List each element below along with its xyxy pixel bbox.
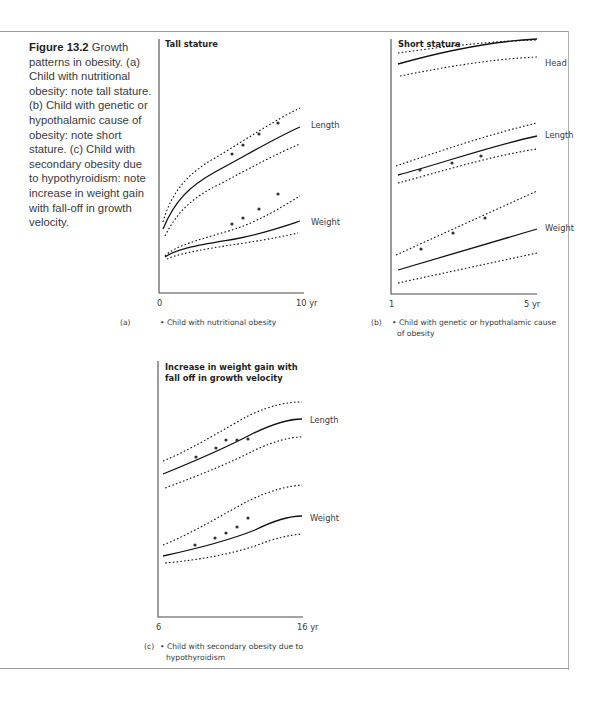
panel-b-title: Short stature [398,39,461,49]
panel-a-weight-label: Weight [311,217,341,227]
panel-a-weight-lower-centile [167,233,298,259]
panel-b-axes [391,39,537,294]
panel-c-points [193,437,249,546]
panel-a-points [230,121,279,225]
panel-a-length-lower-centile [165,144,300,236]
panel-a: Tall stature 0 10 yr Length Weight (a) •… [120,39,341,327]
observation-point [213,536,216,539]
panel-c-title-line2: fall off in growth velocity [165,373,283,383]
panel-c-axes [158,361,303,617]
observation-point [224,531,227,534]
observation-point [241,143,244,146]
panel-b-legend-line1: • Child with genetic or hypothalamic cau… [392,318,556,327]
panel-c-length-lower-centile [165,437,302,488]
panel-b-x-end: 5 yr [524,299,541,309]
observation-point [418,168,421,171]
observation-point [193,543,196,546]
growth-charts: Tall stature 0 10 yr Length Weight (a) •… [0,0,598,701]
panel-c-legend-line2: hypothyroidism [166,653,225,662]
panel-a-weight-median [165,221,300,257]
panel-c-length-upper-centile [163,402,302,461]
panel-a-title: Tall stature [165,39,218,49]
panel-b-weight-upper-centile [396,191,537,255]
observation-point [257,132,260,135]
panel-b-legend-line2: of obesity [397,329,435,338]
observation-point [419,247,422,250]
panel-b-label: (b) [371,318,382,327]
panel-c-label: (c) [144,642,154,651]
panel-b-length-upper-centile [396,123,537,166]
panel-a-x-end: 10 yr [296,298,318,308]
panel-c-x-end: 16 yr [297,622,319,632]
panel-b-head-label: Head [545,58,567,68]
observation-point [235,438,238,441]
panel-a-x-start: 0 [157,298,162,308]
panel-b-head-lower-centile [400,57,537,76]
observation-point [241,216,244,219]
panel-c-length-median [163,419,302,474]
panel-b-weight-median [398,229,537,270]
panel-b-length-label: Length [545,130,574,140]
panel-c-title-line1: Increase in weight gain with [165,362,298,372]
observation-point [483,216,486,219]
panel-b-weight-label: Weight [545,223,575,233]
observation-point [276,121,279,124]
panel-a-label: (a) [120,318,131,327]
observation-point [246,516,249,519]
panel-b-points [418,154,486,250]
panel-c-weight-median [163,516,302,556]
observation-point [230,152,233,155]
panel-c-length-label: Length [310,415,339,425]
observation-point [194,455,197,458]
panel-c-weight-label: Weight [310,513,340,523]
observation-point [224,438,227,441]
panel-a-weight-upper-centile [165,196,300,256]
observation-point [214,446,217,449]
observation-point [235,525,238,528]
observation-point [257,207,260,210]
panel-a-legend: • Child with nutritional obesity [160,318,277,327]
panel-b-weight-lower-centile [398,253,537,283]
observation-point [450,161,453,164]
panel-b-x-start: 1 [389,299,394,309]
panel-c: Increase in weight gain with fall off in… [144,361,340,662]
panel-a-length-median [163,127,300,229]
panel-c-x-start: 6 [156,622,161,632]
observation-point [276,192,279,195]
panel-c-legend-line1: • Child with secondary obesity due to [160,642,304,651]
panel-c-weight-upper-centile [163,485,302,545]
observation-point [451,231,454,234]
observation-point [230,222,233,225]
panel-a-length-upper-centile [163,108,300,222]
panel-a-length-label: Length [311,120,340,130]
panel-a-axes [159,39,304,293]
observation-point [246,437,249,440]
observation-point [479,154,482,157]
panel-b: Short stature 1 5 yr Head Length Weight … [371,39,575,338]
